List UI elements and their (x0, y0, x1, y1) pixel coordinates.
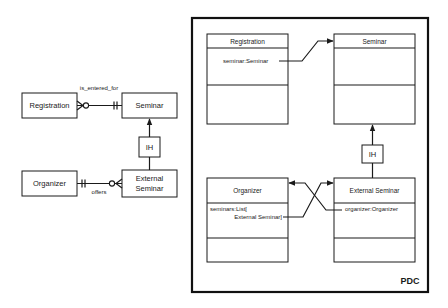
er-entity-registration[interactable]: Registration (22, 93, 77, 118)
er-entity-seminar-label: Seminar (136, 101, 164, 110)
pdc-class-external-seminar-name: External Seminar (350, 187, 401, 194)
pdc-frame-label: PDC (400, 276, 420, 286)
er-entity-external-seminar[interactable]: External Seminar (122, 170, 177, 197)
er-entity-organizer[interactable]: Organizer (22, 171, 77, 196)
pdc-class-registration[interactable]: Registration seminar:Seminar (207, 34, 288, 124)
pdc-class-organizer[interactable]: Organizer seminars:List[ External Semina… (207, 178, 288, 262)
reference-arrow-organizer-to-external-seminar (283, 183, 333, 217)
inheritance-ih-label: IH (146, 143, 154, 152)
pdc-attribute-organizer: organizer:Organizer (345, 206, 398, 212)
pdc-class-seminar[interactable]: Seminar (334, 34, 415, 124)
er-entity-seminar[interactable]: Seminar (122, 93, 177, 118)
er-entity-external-seminar-label-1: External (136, 174, 164, 183)
relationship-label-is-entered-for: is_entered_for (80, 85, 118, 91)
pdc-class-registration-name: Registration (230, 38, 265, 46)
er-relationship-is-entered-for: is_entered_for (77, 85, 122, 110)
pdc-class-organizer-name: Organizer (233, 187, 262, 195)
pdc-diagram: PDC Registration seminar:Seminar Seminar… (192, 18, 428, 292)
pdc-class-seminar-name: Seminar (362, 38, 387, 45)
er-diagram: Registration Seminar is_entered_for (22, 85, 177, 197)
er-inheritance: IH (139, 119, 160, 170)
pdc-attribute-seminars-line2: External Seminar] (234, 214, 282, 220)
pdc-class-external-seminar[interactable]: External Seminar organizer:Organizer (334, 178, 415, 262)
relationship-label-offers: offers (92, 189, 107, 195)
er-entity-external-seminar-label-2: Seminar (136, 184, 164, 193)
inheritance-ih-label: IH (369, 150, 377, 159)
er-entity-registration-label: Registration (29, 101, 69, 110)
pdc-inheritance: IH (362, 125, 383, 178)
pdc-attribute-seminar: seminar:Seminar (223, 58, 268, 64)
er-relationship-offers: offers (77, 179, 122, 195)
er-entity-organizer-label: Organizer (33, 179, 66, 188)
pdc-attribute-seminars-line1: seminars:List[ (210, 206, 247, 212)
